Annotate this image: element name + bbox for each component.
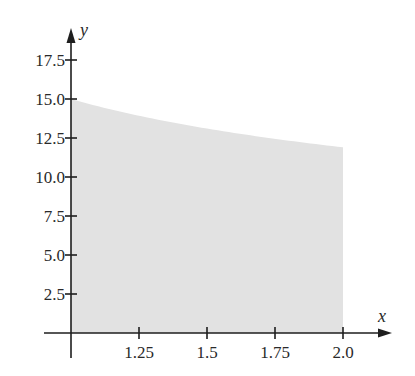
y-tick-label: 15.0 [35,90,65,109]
x-tick-label: 1.5 [196,343,217,362]
x-axis-label: x [377,306,386,326]
y-axis-label: y [78,20,88,40]
shaded-area [71,99,343,333]
x-axis-arrow-icon [378,329,392,338]
y-tick-label: 5.0 [44,246,65,265]
x-tick-label: 1.75 [260,343,290,362]
x-tick-label: 1.25 [124,343,154,362]
y-tick-label: 2.5 [44,285,65,304]
y-tick-label: 7.5 [44,207,65,226]
y-tick-label: 12.5 [35,129,65,148]
y-axis-arrow-icon [67,28,76,43]
x-tick-label: 2.0 [332,343,353,362]
chart: 1.251.51.752.02.55.07.510.012.515.017.5 … [0,0,415,376]
y-tick-label: 10.0 [35,168,65,187]
y-tick-label: 17.5 [35,51,65,70]
